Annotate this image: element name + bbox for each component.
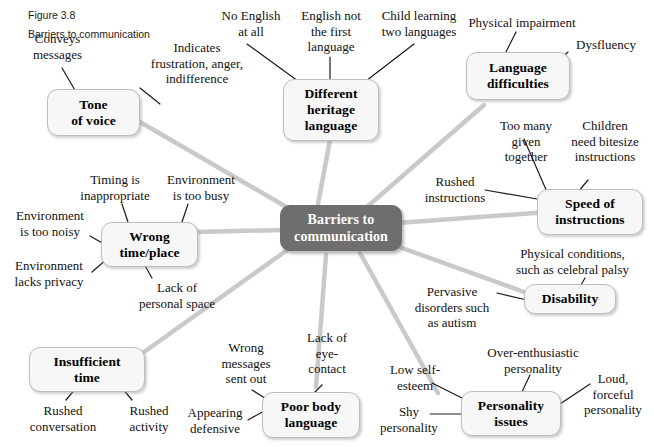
leaf-too-many-given-together: Too many given together: [486, 118, 566, 165]
leaf-environment-is-too-noisy: Environment is too noisy: [3, 208, 97, 239]
leaf-low-self-esteem: Low self- esteem: [385, 362, 445, 393]
leaf-dysfluency: Dysfluency: [562, 37, 650, 53]
leaf-children-need-bitesize-instructions: Children need bitesize instructions: [556, 118, 654, 165]
tick-timing-inappropriate: [122, 204, 128, 222]
leaf-wrong-messages-sent-out: Wrong messages sent out: [203, 340, 289, 387]
leaf-lack-of-personal-space: Lack of personal space: [122, 280, 232, 311]
leaf-indicates-frustration: Indicates frustration, anger, indifferen…: [129, 40, 265, 87]
leaf-pervasive-disorders: Pervasive disorders such as autism: [404, 284, 500, 331]
leaf-shy-personality: Shy personality: [376, 404, 442, 435]
node-language-difficulties[interactable]: Language difficulties: [466, 52, 570, 100]
leaf-conveys-messages: Conveys messages: [10, 31, 105, 62]
node-barriers-to-communication[interactable]: Barriers to communication: [280, 205, 402, 251]
leaf-environment-is-too-busy: Environment is too busy: [152, 172, 250, 203]
tick-physical-impairment: [506, 32, 516, 52]
leaf-english-not-first-language: English not the first language: [288, 8, 374, 55]
node-personality-issues[interactable]: Personality issues: [461, 391, 561, 436]
leaf-no-english-at-all: No English at all: [204, 8, 298, 39]
edge-center-wrong-time-place: [194, 230, 283, 232]
leaf-rushed-activity: Rushed activity: [112, 403, 186, 434]
node-speed-of-instructions[interactable]: Speed of instructions: [537, 189, 643, 235]
tick-environment-too-busy: [182, 204, 188, 222]
leaf-rushed-instructions: Rushed instructions: [415, 174, 495, 205]
leaf-loud-forceful-personality: Loud, forceful personality: [572, 371, 654, 418]
tick-pervasive-disorders: [497, 293, 527, 300]
leaf-lack-of-eye-contact: Lack of eye- contact: [296, 330, 358, 377]
edge-center-different-heritage: [318, 140, 330, 204]
leaf-rushed-conversation: Rushed conversation: [8, 403, 118, 434]
node-wrong-time-place[interactable]: Wrong time/place: [101, 222, 198, 267]
node-disability[interactable]: Disability: [524, 284, 616, 314]
leaf-physical-impairment: Physical impairment: [452, 15, 592, 31]
leaf-environment-lacks-privacy: Environment lacks privacy: [0, 258, 98, 289]
node-poor-body-language[interactable]: Poor body language: [262, 392, 360, 438]
leaf-physical-conditions: Physical conditions, such as celebral pa…: [495, 246, 650, 277]
figure-number: Figure 3.8: [28, 8, 75, 22]
edge-center-speed-of-instructions: [384, 212, 548, 224]
node-different-heritage-language[interactable]: Different heritage language: [283, 79, 379, 141]
tick-indicates-frustration: [140, 88, 160, 104]
node-insufficient-time[interactable]: Insufficient time: [29, 347, 145, 392]
node-tone-of-voice[interactable]: Tone of voice: [47, 89, 140, 136]
figure-canvas: Figure 3.8 Barriers to communication Bar…: [0, 0, 654, 447]
